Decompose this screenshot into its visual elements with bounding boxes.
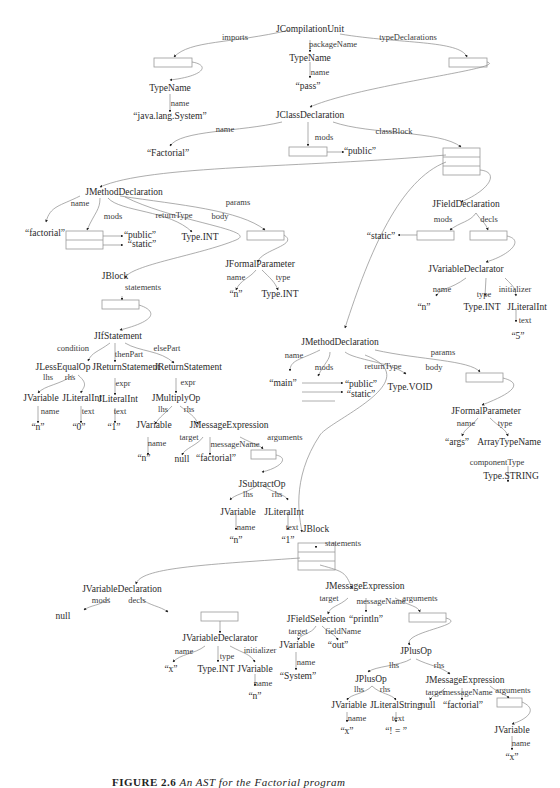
edge-label-type: type [498, 419, 513, 428]
edge-label-rhs: rhs [434, 661, 444, 670]
node-m1-jformalparameter: JFormalParameter [225, 260, 295, 270]
node-msg1-name: “factorial” [196, 454, 236, 464]
edge-label-name: name [71, 199, 89, 208]
node-var-jvariabledeclarator: JVariableDeclarator [182, 634, 257, 644]
edge-label-rhs: rhs [272, 490, 282, 499]
node-msg1-target-null: null [175, 455, 190, 465]
edge-label-condition: condition [57, 344, 89, 353]
node-field-sel-target-name: “System” [280, 672, 316, 682]
edge-label-initializer: initializer [244, 646, 277, 655]
edge-label-target: target [179, 433, 198, 442]
node-jfielddeclaration: JFieldDeclaration [432, 200, 500, 210]
node-msg2-name: “println” [349, 615, 383, 625]
edge-label-type: type [276, 273, 291, 282]
edge-label-name: name [512, 739, 530, 748]
edge-label-text: text [114, 407, 127, 416]
edge-label-mods: mods [92, 596, 110, 605]
edge-label-elsepart: elsePart [154, 344, 181, 353]
edge-label-body: body [212, 212, 229, 221]
node-m2-name-value: “main” [269, 379, 296, 389]
edge-label-thenpart: thenPart [115, 350, 143, 359]
node-package-name-value: “pass” [296, 82, 321, 92]
edge-label-statements: statements [325, 539, 361, 548]
edge-label-expr: expr [180, 378, 195, 387]
edge-label-name: name [148, 439, 166, 448]
edge-label-name: name [433, 285, 451, 294]
node-sub-rhs-text: “1” [281, 536, 294, 546]
node-m2-component-type: Type.STRING [483, 472, 539, 482]
edge-label-classblock: classBlock [376, 127, 413, 136]
edge-label-expr: expr [115, 379, 130, 388]
node-msg3-target-null: null [421, 701, 436, 711]
node-msg3-name: “factorial” [443, 701, 483, 711]
node-field-sel-target-jvariable: JVariable [279, 641, 314, 651]
node-mul-lhs-name: “n” [137, 454, 150, 464]
edge-label-name: name [297, 658, 315, 667]
node-field-var-name: “n” [417, 303, 430, 313]
node-then-jliteralint: JLiteralInt [98, 395, 138, 405]
node-var-x-type: Type.INT [197, 665, 234, 675]
edge-label-packagename: packageName [309, 40, 357, 49]
node-jifstatement: JIfStatement [94, 332, 142, 342]
node-m2-mod-static: “static” [347, 390, 375, 400]
edge-label-name: name [41, 407, 59, 416]
edge-label-rhs: rhs [184, 405, 194, 414]
node-m1-name-value: “factorial” [25, 229, 65, 239]
node-var-x-name: “x” [164, 665, 177, 675]
edge-label-returntype: returnType [155, 211, 192, 220]
figure-caption: FIGURE 2.6 An AST for the Factorial prog… [112, 776, 345, 788]
node-jplusop-outer: JPlusOp [400, 647, 432, 657]
edge-label-messagename: messageName [210, 440, 259, 449]
edge-label-rhs: rhs [65, 373, 75, 382]
figure-caption-text: An AST for the Factorial program [180, 776, 346, 788]
node-jmultiplyop: JMultiplyOp [152, 394, 201, 404]
node-plus-inner-rhs-jliteralstring: JLiteralString [370, 701, 422, 711]
edge-label-imports: imports [222, 33, 248, 42]
edge-label-name: name [175, 647, 193, 656]
node-field-jvariabledeclarator: JVariableDeclarator [428, 265, 503, 275]
edge-label-lhs: lhs [158, 405, 168, 414]
edge-label-name: name [311, 68, 329, 77]
node-m2-return-type: Type.VOID [388, 383, 433, 393]
edge-label-name: name [227, 273, 245, 282]
node-var-decl-mods-null: null [56, 612, 71, 622]
edge-label-mods: mods [434, 215, 452, 224]
node-then-text: “1” [107, 423, 120, 433]
edge-label-type: type [477, 290, 492, 299]
node-m1-mod-static: “static” [128, 240, 156, 250]
edge-label-text: text [82, 407, 95, 416]
node-field-mod-static: “static” [367, 232, 395, 242]
node-lte-lhs-name: “n” [31, 423, 44, 433]
edge-label-typedeclarations: typeDeclarations [379, 33, 437, 42]
edge-label-target: target [425, 688, 444, 697]
edge-label-name: name [457, 419, 475, 428]
node-plus-inner-lhs-name: “x” [340, 727, 353, 737]
edge-label-arguments: arguments [267, 433, 302, 442]
node-jmessageexpression-factorial-call: JMessageExpression [425, 676, 504, 686]
edge-label-lhs: lhs [389, 661, 399, 670]
node-class-mod-public: “public” [344, 147, 376, 157]
edge-label-params: params [226, 198, 251, 207]
node-m1-return-type: Type.INT [181, 233, 218, 243]
edge-label-componenttype: componentType [470, 458, 525, 467]
edge-label-statements: statements [125, 283, 161, 292]
edge-label-lhs: lhs [354, 685, 364, 694]
edge-label-initializer: initializer [499, 285, 532, 294]
node-jcompilationunit: JCompilationUnit [276, 25, 344, 35]
node-plus-inner-rhs-text: “! = ” [385, 727, 407, 737]
node-then-jreturnstatement: JReturnStatement [92, 363, 160, 373]
edge-label-arguments: arguments [495, 686, 530, 695]
edge-label-body: body [426, 363, 443, 372]
node-plus-inner-lhs-jvariable: JVariable [331, 701, 366, 711]
node-import-typename: TypeName [149, 84, 191, 94]
edge-label-target: target [288, 627, 307, 636]
node-class-name-value: “Factorial” [147, 149, 189, 159]
edge-label-decls: decls [128, 596, 145, 605]
node-field-init-text: “5” [511, 332, 524, 342]
node-jfieldselection: JFieldSelection [287, 615, 346, 625]
node-sub-lhs-jvariable: JVariable [220, 508, 255, 518]
node-jmethoddeclaration-factorial: JMethodDeclaration [85, 188, 163, 198]
edge-label-name: name [171, 99, 189, 108]
node-sub-lhs-name: “n” [229, 536, 242, 546]
edge-label-text: text [392, 714, 405, 723]
